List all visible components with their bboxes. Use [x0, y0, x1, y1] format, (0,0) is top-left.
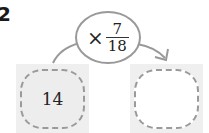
multiply-icon: × [87, 28, 104, 48]
input-value: 14 [42, 89, 64, 109]
input-box-inner: 14 [20, 69, 85, 129]
answer-box-inner[interactable] [134, 69, 199, 129]
answer-box[interactable] [130, 64, 203, 133]
fraction-numerator: 7 [111, 21, 125, 37]
fraction-denominator: 18 [106, 37, 129, 54]
input-box: 14 [16, 64, 89, 133]
arc-out [137, 44, 165, 58]
operator-bubble: × 7 18 [75, 11, 141, 64]
fraction: 7 18 [106, 21, 129, 54]
